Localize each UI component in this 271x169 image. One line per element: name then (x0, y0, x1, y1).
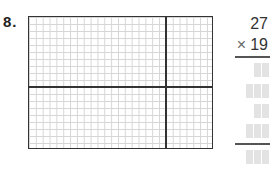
answer-row-4[interactable] (246, 124, 269, 138)
answer-box[interactable] (262, 124, 269, 138)
area-model-grid (28, 16, 213, 149)
answer-box[interactable] (254, 124, 261, 138)
answer-row-1[interactable] (254, 63, 269, 77)
answer-box[interactable] (246, 84, 253, 98)
multiplication-problem: 27 ×19 (230, 0, 270, 169)
answer-box[interactable] (254, 84, 261, 98)
multiplicand: 27 (250, 15, 268, 33)
answer-box[interactable] (262, 104, 269, 118)
answer-box[interactable] (262, 150, 269, 164)
multiplier: 19 (250, 36, 268, 53)
answer-box[interactable] (246, 124, 253, 138)
times-icon: × (237, 36, 246, 53)
answer-box[interactable] (254, 63, 261, 77)
answer-box[interactable] (262, 84, 269, 98)
answer-box[interactable] (262, 63, 269, 77)
problem-rule (235, 56, 270, 58)
sum-rule (235, 143, 270, 145)
answer-box[interactable] (246, 150, 253, 164)
answer-row-total[interactable] (246, 150, 269, 164)
answer-box[interactable] (254, 150, 261, 164)
grid-vertical-divider (165, 17, 167, 148)
answer-row-3[interactable] (254, 104, 269, 118)
answer-row-2[interactable] (246, 84, 269, 98)
answer-box[interactable] (254, 104, 261, 118)
question-number: 8. (3, 13, 18, 30)
multiplier-line: ×19 (237, 36, 268, 54)
grid-horizontal-divider (29, 86, 212, 88)
